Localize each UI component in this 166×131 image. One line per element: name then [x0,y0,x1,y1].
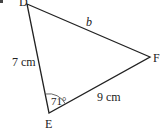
triangle-diagram: D F E b 7 cm 9 cm 71° [0,0,166,131]
vertex-label-f: F [153,51,160,65]
bullet-mark [0,0,3,3]
angle-label-e: 71° [51,95,66,107]
side-label-de: 7 cm [12,55,36,69]
side-label-ef: 9 cm [97,90,121,104]
side-label-df: b [86,15,92,29]
vertex-label-d: D [19,0,28,9]
vertex-label-e: E [45,117,52,131]
